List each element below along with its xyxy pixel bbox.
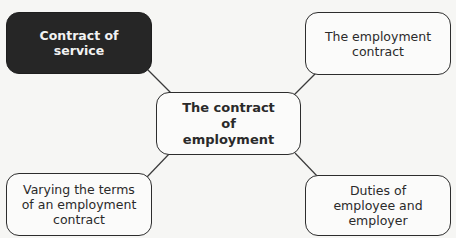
node-label: Varying the terms of an employment contr… xyxy=(17,182,141,227)
node-duties: Duties of employee and employer xyxy=(305,175,451,236)
edge-center-to-varying xyxy=(147,153,170,177)
node-label: The contract of employment xyxy=(175,100,282,148)
node-contract-of-service: Contract of service xyxy=(6,12,152,74)
node-varying-terms: Varying the terms of an employment contr… xyxy=(6,173,152,236)
edge-center-to-contract xyxy=(293,73,316,96)
node-label: The employment contract xyxy=(324,29,432,59)
node-label: Contract of service xyxy=(13,28,145,58)
edge-center-to-service xyxy=(148,70,172,94)
node-employment-contract: The employment contract xyxy=(305,12,451,75)
node-center-contract-of-employment: The contract of employment xyxy=(156,92,301,155)
node-label: Duties of employee and employer xyxy=(320,183,436,228)
edge-center-to-duties xyxy=(295,153,318,177)
